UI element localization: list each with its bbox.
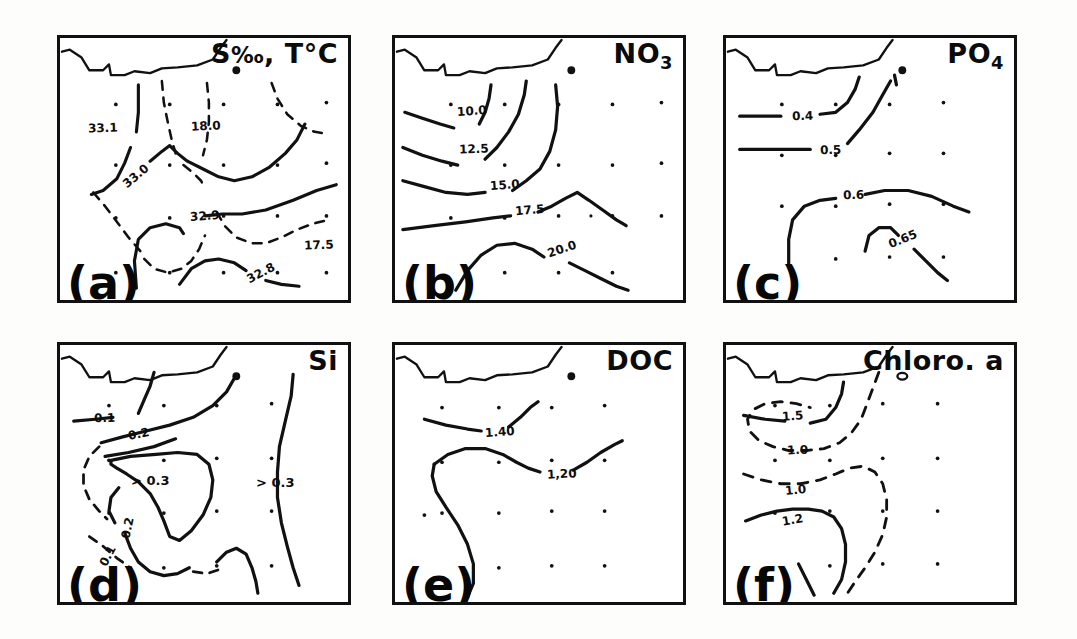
contour-label-0-1-upper: 0.1: [94, 411, 116, 426]
contour-label-1-40: 1.40: [485, 424, 516, 440]
contour-label-33-1: 33.1: [88, 120, 118, 135]
panel-d-tag: (d): [67, 562, 142, 605]
panel-a-tag: (a): [67, 260, 140, 303]
contour-label-1-0-upper: 1.0: [787, 442, 809, 457]
panel-a-salinity-temperature: 33.1 33.0 18.0 32.9 17.5 32.8 S‰, T°C (a…: [57, 35, 351, 303]
panel-c-phosphate: 0.4 0.5 0.6 0.65 PO4 (c): [723, 35, 1017, 303]
panel-e-tag: (e): [402, 562, 475, 605]
panel-f-title: Chloro. a: [863, 347, 1004, 375]
contour-label-0-5: 0.5: [820, 143, 842, 158]
panel-c-tag: (c): [733, 260, 802, 303]
region-label-gt-0-3-right: > 0.3: [256, 475, 294, 490]
coastline: [728, 40, 893, 75]
panel-e-doc: 1.40 1,20 DOC (e): [392, 342, 686, 605]
panel-a-title: S‰, T°C: [211, 40, 338, 68]
panel-c-title: PO4: [947, 40, 1004, 72]
contour-label-32-9: 32.9: [190, 208, 221, 224]
station-dots: [114, 101, 328, 275]
contour-label-12-5: 12.5: [459, 141, 489, 156]
contour-label-17-5: 17.5: [304, 237, 334, 252]
coastline: [62, 40, 227, 75]
panel-d-silicate: 0.1 0.2 > 0.3 > 0.3 0.2 0.1 Si (d): [57, 342, 351, 605]
phosphate-contours: [740, 75, 969, 280]
contour-label-1-5: 1.5: [782, 408, 804, 423]
contour-label-1-0-lower: 1.0: [784, 482, 807, 498]
panel-f-chlorophyll-a: 1.5 1.0 1.0 1.2 Chloro. a (f): [723, 342, 1017, 605]
station-dots: [423, 404, 607, 570]
region-label-gt-0-3-left: > 0.3: [131, 473, 169, 488]
island-marker: [898, 66, 906, 74]
contour-label-0-6: 0.6: [843, 188, 865, 203]
figure-canvas: 33.1 33.0 18.0 32.9 17.5 32.8 S‰, T°C (a…: [0, 0, 1077, 639]
panel-b-nitrate: 10.0 12.5 15.0 17.5 20.0 NO3 (b): [392, 35, 686, 303]
coastline: [397, 347, 562, 382]
island-marker: [567, 372, 575, 380]
contour-label-10-0: 10.0: [457, 103, 488, 119]
contour-label-17-5: 17.5: [514, 202, 545, 219]
panel-b-title: NO3: [614, 40, 673, 72]
panel-f-tag: (f): [733, 562, 795, 605]
contour-label-15-0: 15.0: [490, 177, 521, 193]
panel-b-tag: (b): [402, 260, 477, 303]
contour-label-1-20: 1,20: [547, 466, 577, 482]
panel-d-title: Si: [308, 347, 338, 375]
panel-e-title: DOC: [606, 347, 673, 375]
island-marker: [567, 66, 575, 74]
coastline: [397, 40, 562, 75]
contour-label-18-0: 18.0: [191, 118, 221, 134]
contour-label-0-4: 0.4: [792, 109, 814, 124]
coastline: [62, 347, 227, 382]
